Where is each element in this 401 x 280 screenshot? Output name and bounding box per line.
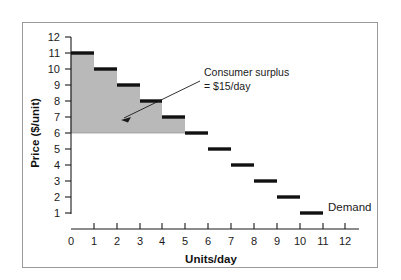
demand-curve-label: Demand (328, 201, 371, 213)
x-tick-label-8: 8 (251, 235, 257, 247)
y-tick-label-6: 6 (54, 127, 60, 139)
x-tick-label-0: 0 (68, 235, 74, 247)
y-tick-label-1: 1 (54, 207, 60, 219)
x-tick-label-3: 3 (137, 235, 143, 247)
y-tick-label-9: 9 (54, 79, 60, 91)
x-axis-title: Units/day (185, 253, 237, 265)
y-tick-label-3: 3 (54, 175, 60, 187)
y-tick-label-5: 5 (54, 143, 60, 155)
y-tick-label-4: 4 (54, 159, 60, 171)
x-tick-label-6: 6 (205, 235, 211, 247)
x-tick-label-9: 9 (274, 235, 280, 247)
y-axis: 12 11 10 9 8 7 6 5 4 3 2 1 Price ($/unit… (29, 31, 71, 219)
y-tick-label-7: 7 (54, 111, 60, 123)
y-tick-label-2: 2 (54, 191, 60, 203)
callout-line-2: = $15/day (204, 80, 251, 92)
y-tick-label-11: 11 (49, 47, 60, 59)
x-tick-label-4: 4 (159, 235, 165, 247)
figure-frame: 12 11 10 9 8 7 6 5 4 3 2 1 Price ($/unit… (22, 22, 378, 268)
x-tick-label-7: 7 (228, 235, 234, 247)
x-tick-label-2: 2 (114, 235, 120, 247)
y-tick-label-10: 10 (48, 63, 60, 75)
callout-line-1: Consumer surplus (204, 66, 289, 78)
x-tick-label-1: 1 (91, 235, 97, 247)
y-axis-title: Price ($/unit) (29, 98, 41, 168)
y-tick-label-12: 12 (48, 31, 60, 43)
x-tick-label-5: 5 (182, 235, 188, 247)
demand-consumer-surplus-chart: 12 11 10 9 8 7 6 5 4 3 2 1 Price ($/unit… (23, 23, 377, 267)
x-tick-label-10: 10 (294, 235, 306, 247)
x-tick-label-12: 12 (339, 235, 351, 247)
x-tick-label-11: 11 (317, 235, 328, 247)
x-axis: 0 1 2 3 4 5 6 7 8 9 10 11 12 Units/day (68, 223, 359, 265)
y-tick-label-8: 8 (54, 95, 60, 107)
